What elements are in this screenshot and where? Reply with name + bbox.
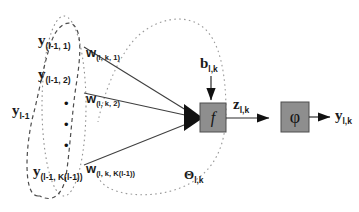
- weight-label-2: w(l, k, 2): [86, 90, 120, 106]
- input-group-label: yl-1: [12, 102, 29, 118]
- parameter-group-label: Θl,k: [184, 166, 204, 182]
- output-label: yl,k: [335, 107, 352, 123]
- activation-function-symbol: φ: [281, 102, 309, 132]
- neuron-diagram-canvas: yl-1 y(l-1, 1) y(l-1, 2) y(l-1, K(l-1)) …: [0, 0, 359, 212]
- input-vertical-ellipsis-3: •: [64, 139, 69, 152]
- weight-label-3: w(l, k, K(l-1)): [86, 160, 135, 176]
- net-input-label: zl,k: [233, 96, 249, 112]
- weight-label-1: w(l, k, 1): [86, 44, 120, 60]
- input-vertical-ellipsis-2: •: [64, 118, 69, 131]
- input-node-label-2: y(l-1, 2): [38, 66, 71, 82]
- weight-line-3: [84, 121, 194, 165]
- input-node-label-1: y(l-1, 1): [38, 32, 71, 48]
- input-node-label-3: y(l-1, K(l-1)): [33, 163, 83, 179]
- input-vertical-ellipsis-1: •: [64, 97, 69, 110]
- bias-label: bl,k: [200, 55, 218, 71]
- transfer-function-symbol: f: [200, 103, 226, 132]
